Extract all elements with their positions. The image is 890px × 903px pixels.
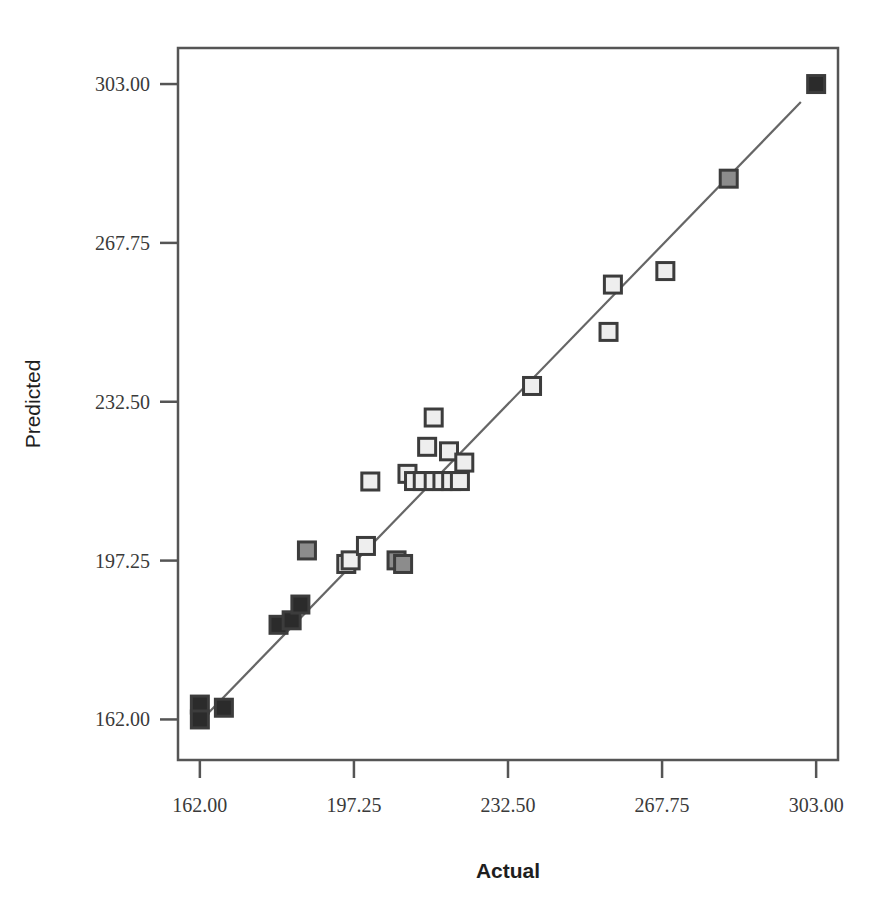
x-tick-label: 197.25	[326, 794, 381, 816]
data-point-marker	[298, 542, 315, 559]
data-point-marker	[600, 323, 617, 340]
data-point-marker	[362, 473, 379, 490]
x-tick-label: 232.50	[481, 794, 536, 816]
data-point-marker	[451, 473, 468, 490]
data-point-marker	[419, 438, 436, 455]
y-axis-title: Predicted	[21, 360, 44, 449]
data-point-marker	[292, 596, 309, 613]
y-tick-label: 162.00	[95, 708, 150, 730]
x-tick-label: 267.75	[635, 794, 690, 816]
x-axis: 162.00197.25232.50267.75303.00	[172, 760, 843, 816]
data-point-marker	[604, 276, 621, 293]
data-point-marker	[720, 170, 737, 187]
x-tick-label: 303.00	[789, 794, 844, 816]
data-point-marker	[425, 409, 442, 426]
y-tick-label: 267.75	[95, 232, 150, 254]
x-tick-label: 162.00	[172, 794, 227, 816]
data-point-marker	[215, 699, 232, 716]
data-point-marker	[657, 263, 674, 280]
y-tick-label: 303.00	[95, 73, 150, 95]
data-point-marker	[456, 454, 473, 471]
data-point-marker	[524, 377, 541, 394]
y-axis: 162.00197.25232.50267.75303.00	[95, 73, 178, 730]
scatter-chart: 162.00197.25232.50267.75303.00162.00197.…	[0, 0, 890, 903]
data-point-marker	[357, 537, 374, 554]
data-point-marker	[808, 76, 825, 93]
data-point-marker	[395, 555, 412, 572]
y-tick-label: 232.50	[95, 391, 150, 413]
chart-page: 162.00197.25232.50267.75303.00162.00197.…	[0, 0, 890, 903]
y-tick-label: 197.25	[95, 550, 150, 572]
data-point-marker	[191, 711, 208, 728]
x-axis-title: Actual	[476, 859, 540, 882]
